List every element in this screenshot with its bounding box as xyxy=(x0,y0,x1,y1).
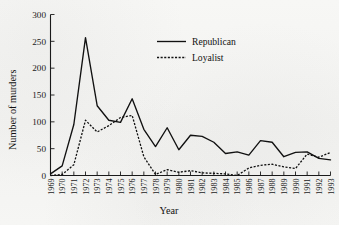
x-tick-label: 1974 xyxy=(105,179,114,195)
y-axis-ticks xyxy=(51,15,55,176)
x-tick-label: 1984 xyxy=(222,179,231,195)
x-tick-label: 1992 xyxy=(315,179,324,195)
x-tick-label: 1982 xyxy=(198,179,207,195)
x-tick-label: 1988 xyxy=(268,179,277,195)
x-axis-tick-labels: 1969197019711972197319741975197619771978… xyxy=(47,179,336,195)
y-tick-label: 150 xyxy=(32,90,46,100)
x-tick-label: 1980 xyxy=(175,179,184,195)
y-axis-title: Number of murders xyxy=(7,70,18,150)
series-line-loyalist xyxy=(51,115,331,175)
x-tick-label: 1979 xyxy=(163,179,172,195)
x-tick-label: 1990 xyxy=(292,179,301,195)
chart-legend: Republican Loyalist xyxy=(157,36,236,63)
x-tick-label: 1971 xyxy=(70,179,79,195)
y-tick-label: 250 xyxy=(32,37,46,47)
y-tick-label: 100 xyxy=(32,117,46,127)
x-tick-label: 1987 xyxy=(257,179,266,195)
x-axis-ticks xyxy=(51,172,331,176)
y-tick-label: 200 xyxy=(32,63,46,73)
x-tick-label: 1983 xyxy=(210,179,219,195)
x-tick-label: 1993 xyxy=(327,179,336,195)
x-axis-title: Year xyxy=(160,205,179,216)
legend-label-loyalist: Loyalist xyxy=(192,52,224,63)
x-tick-label: 1985 xyxy=(233,179,242,195)
legend-label-republican: Republican xyxy=(192,36,236,47)
x-tick-label: 1986 xyxy=(245,179,254,195)
x-tick-label: 1969 xyxy=(47,179,56,195)
x-tick-label: 1972 xyxy=(82,179,91,195)
series-line-republican xyxy=(51,38,331,174)
y-tick-label: 300 xyxy=(32,10,46,20)
x-tick-label: 1977 xyxy=(140,179,149,195)
x-tick-label: 1978 xyxy=(152,179,161,195)
chart-canvas: Number of murders 050100150200250300 196… xyxy=(0,0,339,225)
y-axis-tick-labels: 050100150200250300 xyxy=(32,10,46,181)
x-tick-label: 1981 xyxy=(187,179,196,195)
x-tick-label: 1991 xyxy=(303,179,312,195)
y-tick-label: 50 xyxy=(37,144,47,154)
x-tick-label: 1975 xyxy=(117,179,126,195)
murders-by-year-line-chart: Number of murders 050100150200250300 196… xyxy=(0,0,339,225)
x-tick-label: 1973 xyxy=(93,179,102,195)
x-tick-label: 1989 xyxy=(280,179,289,195)
x-tick-label: 1970 xyxy=(58,179,67,195)
x-tick-label: 1976 xyxy=(128,179,137,195)
